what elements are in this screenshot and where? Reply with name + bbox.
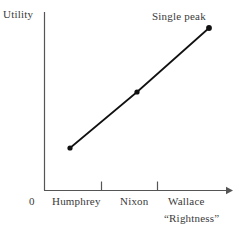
x-axis-arrow-icon [226,187,233,194]
y-axis-label: Utility [3,9,33,20]
x-axis-title: “Rightness” [164,213,219,224]
data-point-nixon [134,89,139,94]
x-tick-label-nixon: Nixon [120,196,149,207]
x-tick-label-humphrey: Humphrey [52,196,101,207]
single-peak-annotation: Single peak [152,11,206,22]
single-peak-utility-chart: Utility Single peak 0 Humphrey Nixon Wal… [0,0,239,234]
data-point-wallace [206,25,212,31]
x-tick-label-wallace: Wallace [168,196,205,207]
origin-label: 0 [29,196,35,207]
utility-line-series [70,28,209,148]
data-point-humphrey [67,145,72,150]
